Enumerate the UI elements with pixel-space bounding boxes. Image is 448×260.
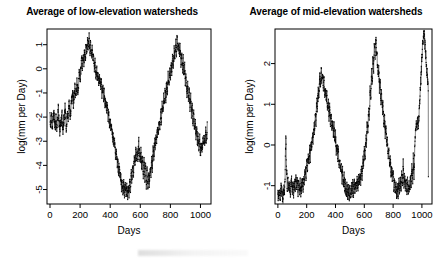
x-tick-label: 200 [72,209,88,220]
plot-mid-elevation: 02004006008001000Days210-1log(mm per Day… [224,0,448,260]
figure-container: Average of low-elevation watersheds 0200… [0,0,448,260]
x-tick-label: 200 [299,209,315,220]
x-tick-label: 400 [102,209,118,220]
y-axis-title: log(mm per Day) [16,79,27,153]
x-axis-title: Days [342,225,365,236]
y-tick-label: 0 [262,142,273,147]
x-tick-label: 800 [162,209,178,220]
panel-low-elevation: Average of low-elevation watersheds 0200… [0,0,224,260]
x-tick-label: 600 [132,209,148,220]
bottom-edge-artifact [138,250,248,256]
plot-low-elevation: 02004006008001000Days10-1-2-3-4-5log(mm … [0,0,224,260]
x-tick-label: 1000 [411,209,432,220]
y-tick-label: -2 [34,113,45,121]
series-line [50,33,207,200]
y-tick-label: 2 [262,61,273,66]
y-tick-label: -5 [34,185,45,193]
series-group [49,32,207,200]
x-tick-label: 600 [356,209,372,220]
y-tick-label: -1 [34,89,45,97]
y-tick-label: -1 [262,181,273,189]
panel-mid-elevation: Average of mid-elevation watersheds 0200… [224,0,448,260]
y-tick-label: -4 [34,161,45,169]
x-tick-label: 400 [328,209,344,220]
x-tick-label: 0 [47,209,52,220]
x-axis-title: Days [118,225,141,236]
y-tick-label: 1 [262,102,273,107]
x-tick-label: 1000 [190,209,211,220]
y-tick-label: -3 [34,137,45,145]
y-tick-label: 0 [34,66,45,71]
series-group [277,30,429,205]
x-tick-label: 0 [275,209,280,220]
y-axis-title: log(mm per Day) [244,79,255,153]
x-tick-label: 800 [385,209,401,220]
y-tick-label: 1 [34,42,45,47]
